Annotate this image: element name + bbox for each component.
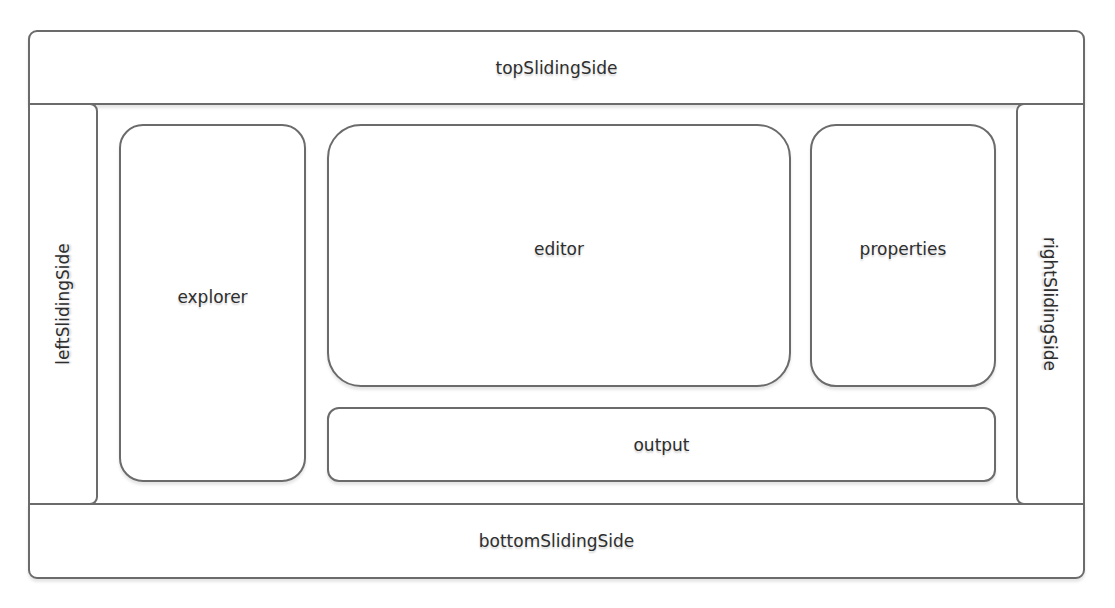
properties-panel: properties xyxy=(810,124,996,387)
top-sliding-side: topSlidingSide xyxy=(28,30,1085,105)
top-sliding-side-label: topSlidingSide xyxy=(496,58,618,78)
explorer-panel: explorer xyxy=(119,124,306,482)
right-sliding-side: rightSlidingSide xyxy=(1016,103,1085,505)
bottom-sliding-side: bottomSlidingSide xyxy=(28,503,1085,579)
left-sliding-side: leftSlidingSide xyxy=(28,103,98,505)
properties-panel-label: properties xyxy=(860,239,947,259)
left-sliding-side-label: leftSlidingSide xyxy=(53,243,73,365)
editor-panel-label: editor xyxy=(534,239,584,259)
explorer-panel-label: explorer xyxy=(177,287,247,307)
bottom-sliding-side-label: bottomSlidingSide xyxy=(479,531,635,551)
editor-panel: editor xyxy=(327,124,791,387)
output-panel: output xyxy=(327,407,996,482)
right-sliding-side-label: rightSlidingSide xyxy=(1041,237,1061,371)
output-panel-label: output xyxy=(633,435,689,455)
